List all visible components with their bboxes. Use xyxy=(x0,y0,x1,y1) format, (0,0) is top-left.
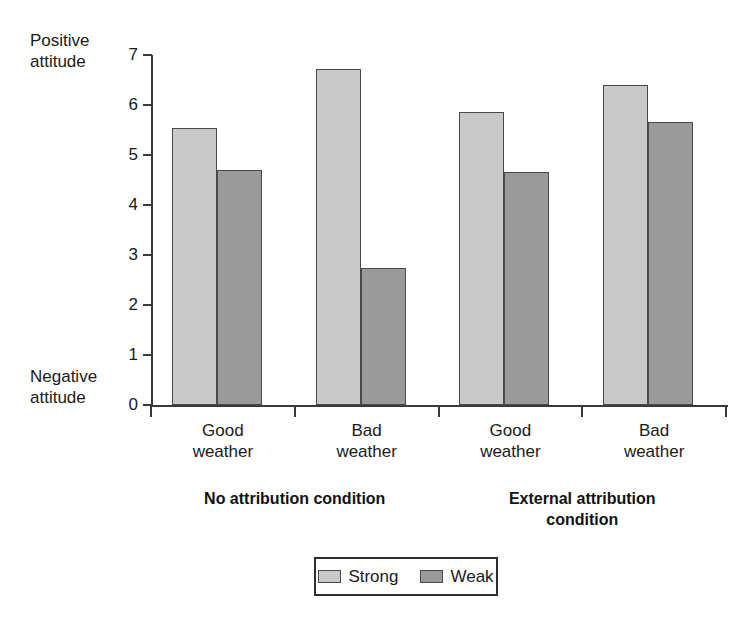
bar-strong-3 xyxy=(603,85,648,405)
legend-swatch-weak-icon xyxy=(420,570,443,583)
legend-swatch-strong-icon xyxy=(318,570,341,583)
y-axis-tick-label-text: 3 xyxy=(104,246,138,263)
y-axis-tick-label: 7 xyxy=(100,46,138,63)
y-axis-tick-label: 4 xyxy=(100,196,138,213)
y-axis-tick-label-text: 0 xyxy=(104,396,138,413)
legend-item-strong: Strong xyxy=(318,568,398,585)
bar-weak-1 xyxy=(361,268,406,406)
bar-weak-0 xyxy=(217,170,262,405)
chart-legend: Strong Weak xyxy=(314,557,498,596)
y-axis-tick-label-text: 6 xyxy=(104,96,138,113)
y-axis-tick-label-text: 5 xyxy=(104,146,138,163)
y-axis-tick-label-text: 1 xyxy=(104,346,138,363)
x-axis-tick xyxy=(581,406,583,417)
x-axis-tick xyxy=(294,406,296,417)
x-axis-tick xyxy=(725,406,727,417)
y-axis-tick-label: 0 xyxy=(100,396,138,413)
legend-label-weak: Weak xyxy=(450,568,493,585)
x-axis-category-label: Good weather xyxy=(151,420,295,462)
x-axis-tick xyxy=(150,406,152,417)
y-axis-tick-label: 5 xyxy=(100,146,138,163)
bar-weak-2 xyxy=(504,172,549,406)
x-axis-category-label: Bad weather xyxy=(295,420,439,462)
bar-strong-2 xyxy=(459,112,504,406)
x-axis-tick xyxy=(438,406,440,417)
x-axis-category-label: Good weather xyxy=(439,420,583,462)
y-axis-tick-label-text: 4 xyxy=(104,196,138,213)
x-axis-group-label: No attribution condition xyxy=(151,488,439,509)
bar-strong-0 xyxy=(172,128,217,406)
legend-label-strong: Strong xyxy=(348,568,398,585)
y-axis-tick-label: 3 xyxy=(100,246,138,263)
y-axis-tick-label: 1 xyxy=(100,346,138,363)
bar-weak-3 xyxy=(648,122,693,406)
y-axis-tick-label: 6 xyxy=(100,96,138,113)
y-axis-tick-label-text: 2 xyxy=(104,296,138,313)
x-axis-group-label: External attribution condition xyxy=(439,488,727,530)
legend-item-weak: Weak xyxy=(420,568,493,585)
y-axis-tick-label: 2 xyxy=(100,296,138,313)
x-axis-category-label: Bad weather xyxy=(582,420,726,462)
bar-strong-1 xyxy=(316,69,361,406)
x-axis-line xyxy=(151,405,728,407)
bar-chart-figure: Positive attitude Negative attitude 7654… xyxy=(0,0,751,631)
plot-area xyxy=(151,55,726,405)
y-axis-tick-label-text: 7 xyxy=(104,46,138,63)
